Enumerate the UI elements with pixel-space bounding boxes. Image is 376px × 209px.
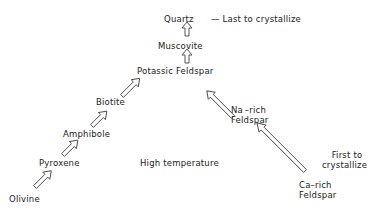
annotation-last-to-crystallize: — Last to crystallize [211, 14, 301, 24]
arrows-layer [0, 0, 376, 209]
arrow-muscovite-to-quartz [182, 22, 192, 36]
arrow-olivine-to-pyroxene [31, 167, 54, 190]
label-potassic-feldspar: Potassic Feldspar [137, 66, 214, 76]
label-biotite: Biotite [96, 97, 125, 107]
label-na-rich-line1: Na –rich [231, 105, 266, 115]
label-amphibole: Amphibole [63, 129, 110, 139]
label-ca-rich-line2: Feldspar [299, 190, 337, 200]
arrow-carich-to-narich [253, 119, 308, 174]
arrow-kspar-to-muscovite [182, 49, 192, 63]
arrow-amphibole-to-biotite [88, 108, 110, 130]
arrow-pyroxene-to-amphibole [59, 137, 81, 159]
label-ca-rich-line1: Ca–rich [299, 180, 332, 190]
annotation-first-line2: crystallize [322, 160, 367, 170]
arrow-biotite-to-kspar [118, 75, 143, 100]
label-olivine: Olivine [9, 194, 40, 204]
label-quartz: Quartz [164, 14, 194, 24]
annotation-first-line1: First to [327, 150, 367, 160]
label-na-rich-line2: Feldspar [231, 115, 269, 125]
annotation-high-temperature: High temperature [140, 158, 219, 168]
label-muscovite: Muscovite [158, 41, 203, 51]
label-pyroxene: Pyroxene [39, 158, 80, 168]
